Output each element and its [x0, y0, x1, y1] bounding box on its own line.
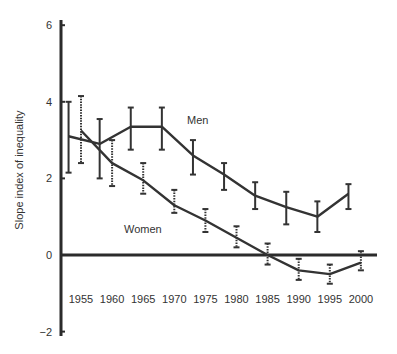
x-tick-label: 1970 — [162, 293, 186, 305]
x-tick-label: 1985 — [255, 293, 279, 305]
men-series-label: Men — [187, 114, 208, 126]
x-tick-label: 1965 — [131, 293, 155, 305]
x-tick-label: 1975 — [193, 293, 217, 305]
women-series-label: Women — [124, 223, 162, 235]
x-tick-label: 1955 — [69, 293, 93, 305]
y-tick-label: 2 — [46, 172, 52, 184]
y-axis-title: Slope index of inequality — [13, 110, 25, 230]
x-tick-label: 1960 — [100, 293, 124, 305]
x-axis-ticks: 1955196019651970197519801985199019952000 — [69, 293, 373, 305]
y-tick-label: −2 — [39, 326, 52, 338]
axes — [61, 20, 377, 336]
y-tick-label: 4 — [46, 96, 52, 108]
x-tick-label: 1980 — [224, 293, 248, 305]
x-tick-label: 2000 — [349, 293, 373, 305]
y-tick-label: 6 — [46, 19, 52, 31]
series-men — [66, 102, 352, 232]
x-tick-label: 1995 — [318, 293, 342, 305]
slope-index-chart: 6420−2 195519601965197019751980198519901… — [0, 0, 397, 354]
y-tick-label: 0 — [46, 249, 52, 261]
x-tick-label: 1990 — [286, 293, 310, 305]
